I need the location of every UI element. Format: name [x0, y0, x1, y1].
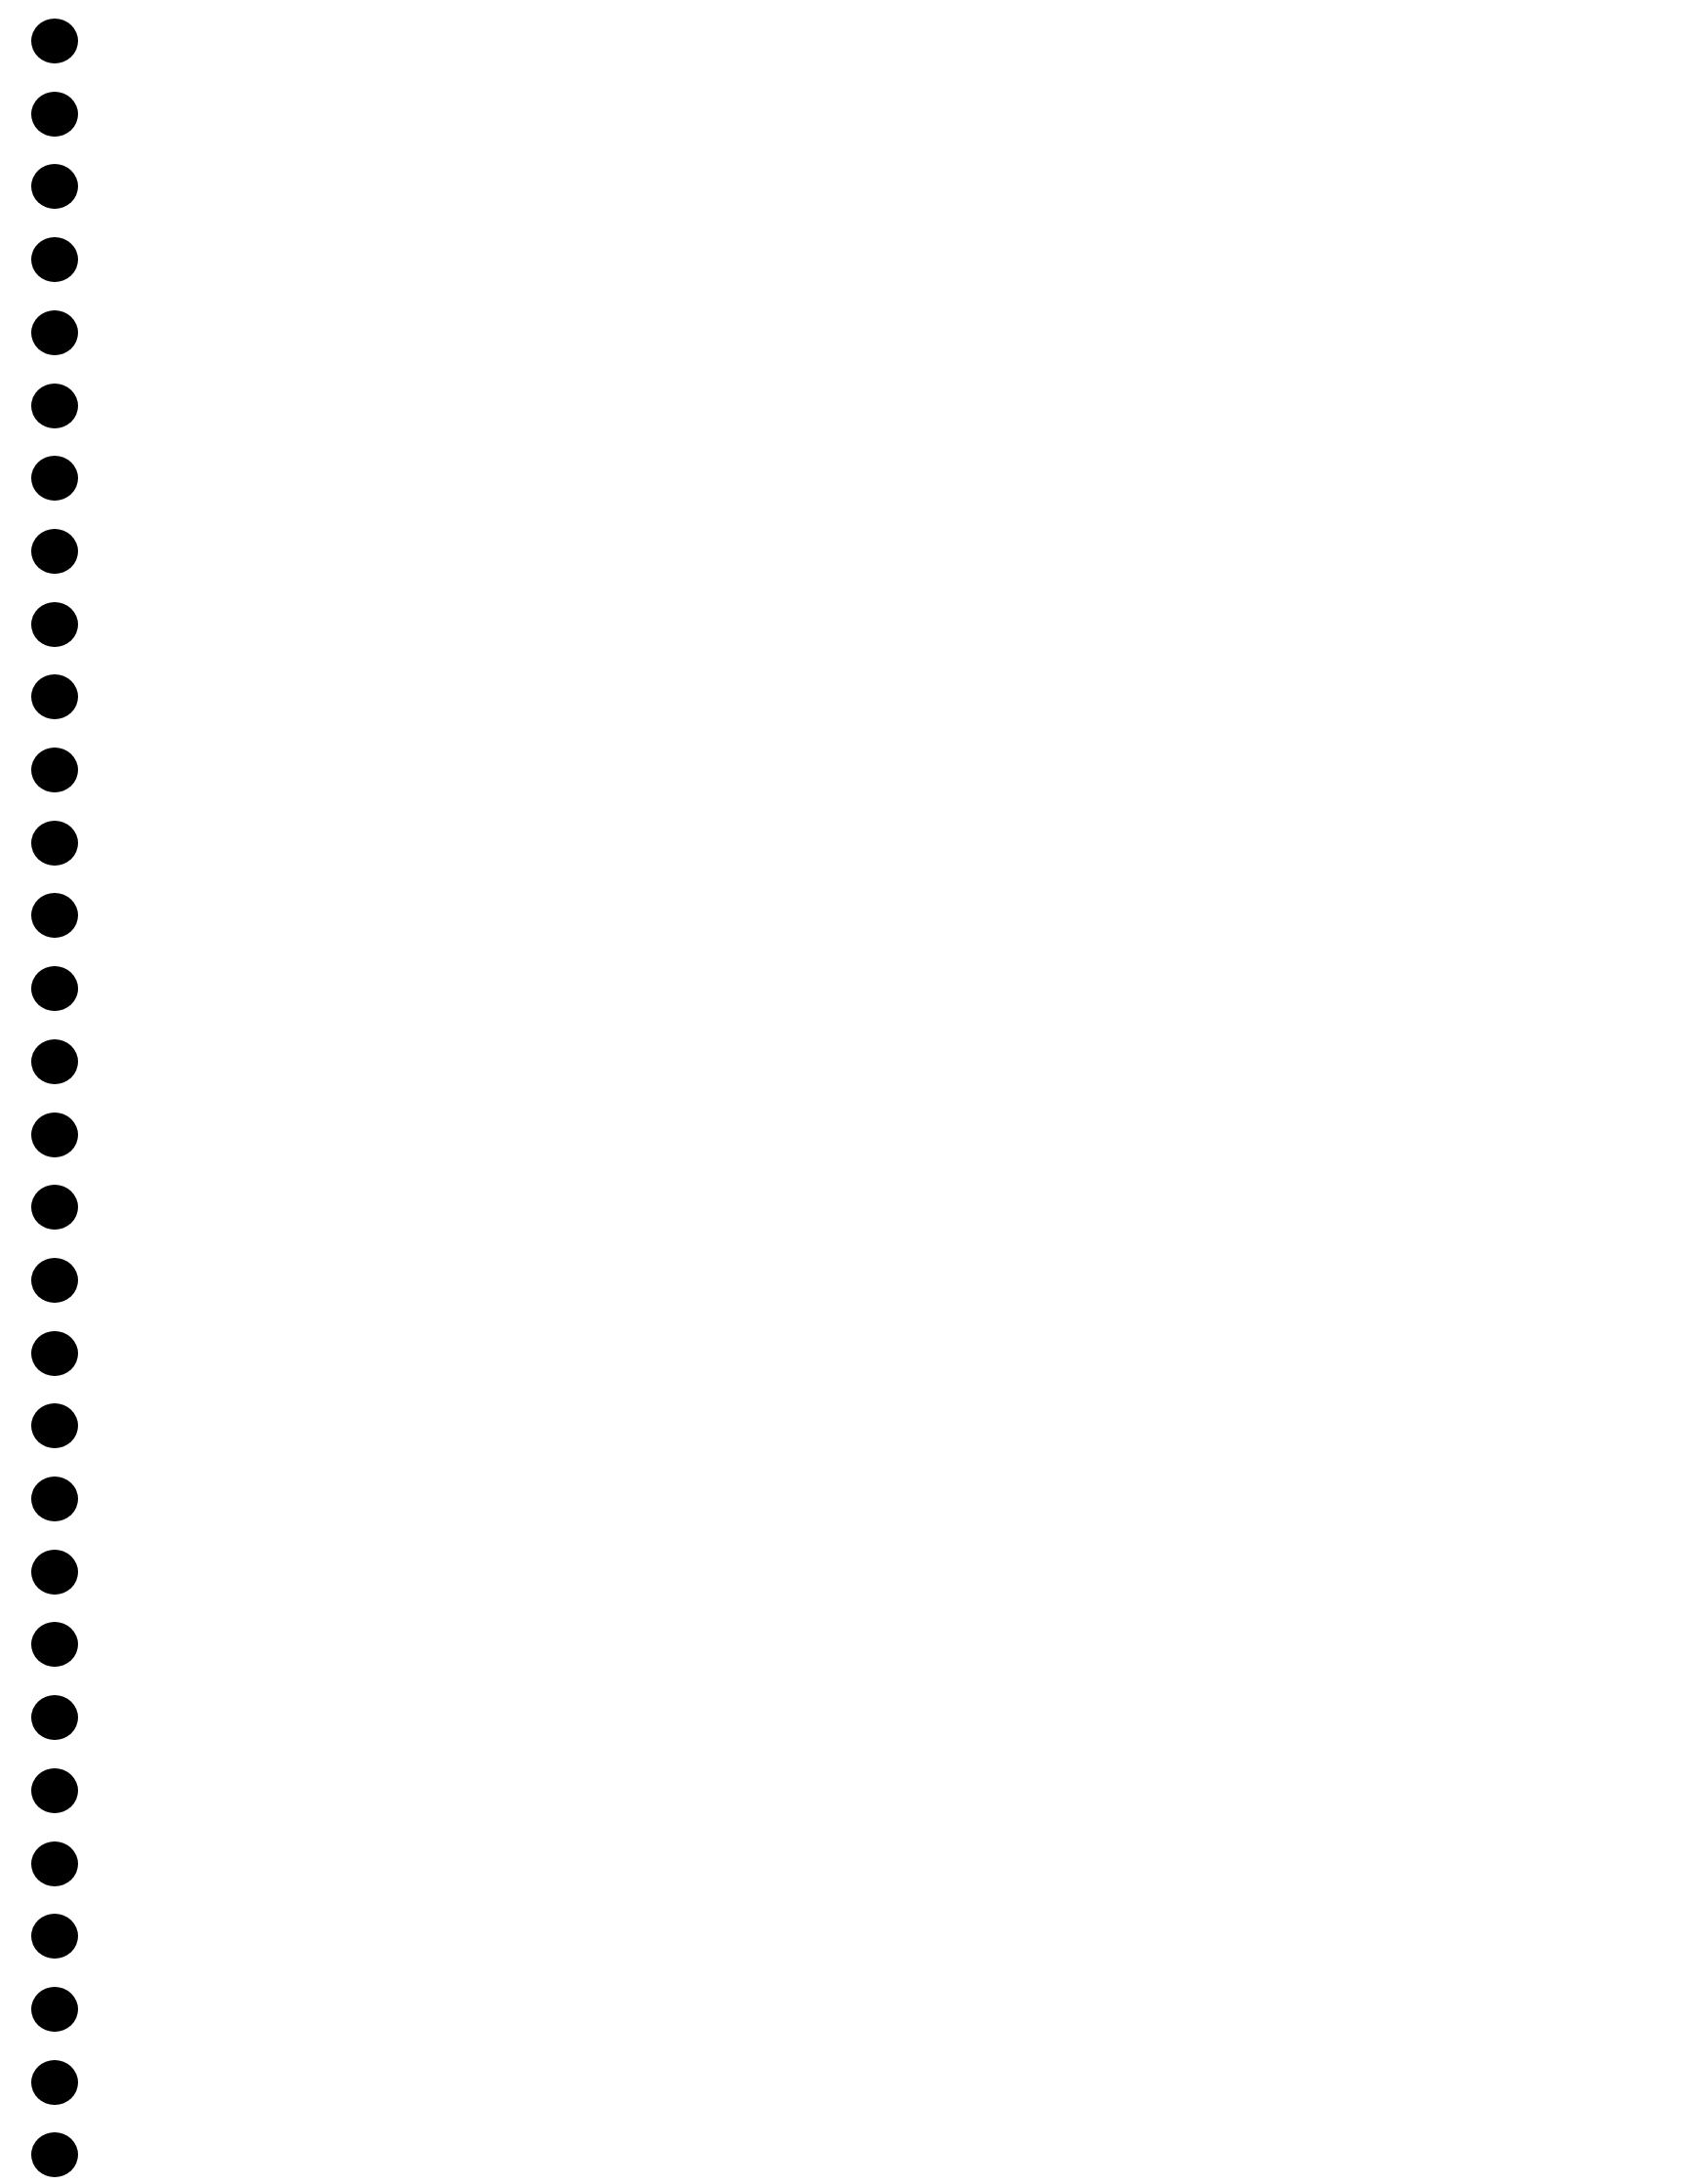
binder-hole-icon [31, 1695, 78, 1740]
binder-hole-icon [31, 164, 78, 209]
binder-hole-icon [31, 2060, 78, 2105]
binder-hole-icon [31, 966, 78, 1011]
binder-hole-icon [31, 1039, 78, 1084]
binder-hole-icon [31, 1258, 78, 1303]
binder-hole-icon [31, 1476, 78, 1521]
binder-hole-icon [31, 748, 78, 792]
binder-hole-icon [31, 1112, 78, 1157]
binder-hole-icon [31, 1331, 78, 1376]
binder-hole-icon [31, 602, 78, 647]
binder-hole-icon [31, 821, 78, 866]
binder-hole-icon [31, 237, 78, 282]
binder-hole-icon [31, 2132, 78, 2177]
binder-hole-icon [31, 1987, 78, 2032]
binder-hole-icon [31, 384, 78, 428]
binder-hole-icon [31, 674, 78, 719]
binder-hole-column [0, 0, 117, 2184]
binder-hole-icon [31, 1185, 78, 1230]
binder-hole-icon [31, 893, 78, 938]
binder-hole-icon [31, 1403, 78, 1448]
binder-hole-icon [31, 1768, 78, 1813]
blank-writing-area [117, 0, 1686, 2184]
binder-hole-icon [31, 1550, 78, 1595]
notebook-page [0, 0, 1686, 2184]
binder-hole-icon [31, 1622, 78, 1667]
binder-hole-icon [31, 456, 78, 501]
binder-hole-icon [31, 19, 78, 63]
binder-hole-icon [31, 1841, 78, 1886]
binder-hole-icon [31, 1914, 78, 1959]
binder-hole-icon [31, 529, 78, 574]
binder-hole-icon [31, 92, 78, 137]
binder-hole-icon [31, 310, 78, 355]
